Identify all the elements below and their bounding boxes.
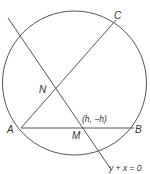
- label-n: N: [39, 84, 47, 95]
- chord-ac: [21, 20, 116, 128]
- label-a: A: [6, 124, 14, 135]
- circle-diagram: C N A B M (h, −h) y + x = 0: [0, 0, 150, 174]
- label-b: B: [135, 124, 142, 135]
- label-c: C: [114, 10, 122, 21]
- label-m-coords: (h, −h): [82, 114, 107, 124]
- line-y-plus-x-zero: [8, 18, 110, 168]
- label-m: M: [72, 130, 81, 141]
- label-line-equation: y + x = 0: [108, 163, 142, 173]
